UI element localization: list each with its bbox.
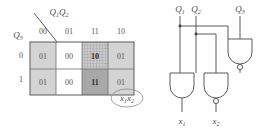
kmap-column-header-0: 00	[39, 27, 47, 36]
figure-kmap-and-circuit: Q1Q2 Q3 00 01 11 10 0 1 01 00 10 01	[0, 0, 260, 128]
kmap-row-header-0: 0	[19, 51, 23, 60]
kmap: Q1Q2 Q3 00 01 11 10 0 1 01 00 10 01	[13, 7, 143, 107]
kmap-column-variable-label: Q1Q2	[50, 7, 69, 18]
nand-gate-top-bubble	[237, 64, 242, 69]
circuit-input-label-q3: Q3	[235, 4, 245, 15]
kmap-row-variable-label: Q3	[13, 30, 23, 41]
kmap-column-header-3: 10	[117, 27, 125, 36]
kmap-cell-r0c3: 01	[117, 52, 125, 61]
kmap-cell-r0c0: 01	[39, 52, 47, 61]
and-gate-right-bubble	[213, 98, 218, 103]
circuit-input-label-q2: Q2	[191, 4, 201, 15]
kmap-cell-r0c2: 10	[91, 52, 99, 61]
and-gate-left	[170, 73, 194, 98]
kmap-cell-r0c1: 00	[65, 52, 73, 61]
nand-gate-top	[228, 39, 252, 64]
kmap-cell-r1c1: 00	[65, 78, 73, 87]
kmap-row-header-1: 1	[19, 75, 23, 84]
kmap-cell-r1c2: 11	[91, 78, 99, 87]
junction-dot-q2	[195, 33, 198, 36]
kmap-column-header-2: 11	[91, 27, 99, 36]
circuit-input-label-q1: Q1	[175, 4, 185, 15]
circuit-output-label-x2: x2	[212, 116, 220, 127]
kmap-cell-r1c3: 01	[117, 78, 125, 87]
circuit-diagram: Q1 Q2 Q3 x1	[170, 4, 252, 127]
circuit-output-label-x1: x1	[178, 116, 186, 127]
junction-dot-q1	[179, 25, 182, 28]
kmap-cell-r1c0: 01	[39, 78, 47, 87]
kmap-column-header-1: 01	[65, 27, 73, 36]
and-gate-right	[204, 73, 228, 98]
